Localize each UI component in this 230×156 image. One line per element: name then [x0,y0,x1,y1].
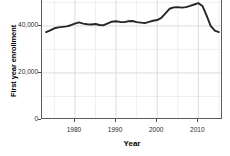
y-tick-label: 0 [4,115,38,122]
y-tick-mark [38,119,41,120]
y-tick-label: 40,000 [4,21,38,28]
x-tick-label: 1980 [67,126,81,133]
line-chart: First year enrollment 020,00040,000 1980… [0,0,230,156]
major-gridlines [42,0,222,119]
x-tick-label: 2000 [149,126,163,133]
y-tick-label: 20,000 [4,68,38,75]
x-tick-label: 2010 [190,126,204,133]
plot-panel [41,0,222,119]
minor-gridlines [42,0,222,119]
plot-area [42,0,222,119]
enrollment-line [46,3,219,32]
y-axis-tick-labels: 020,00040,000 [2,0,38,130]
x-axis-title: Year [41,139,223,148]
x-axis-tick-labels: 1980199020002010 [0,122,230,134]
x-tick-label: 1990 [108,126,122,133]
